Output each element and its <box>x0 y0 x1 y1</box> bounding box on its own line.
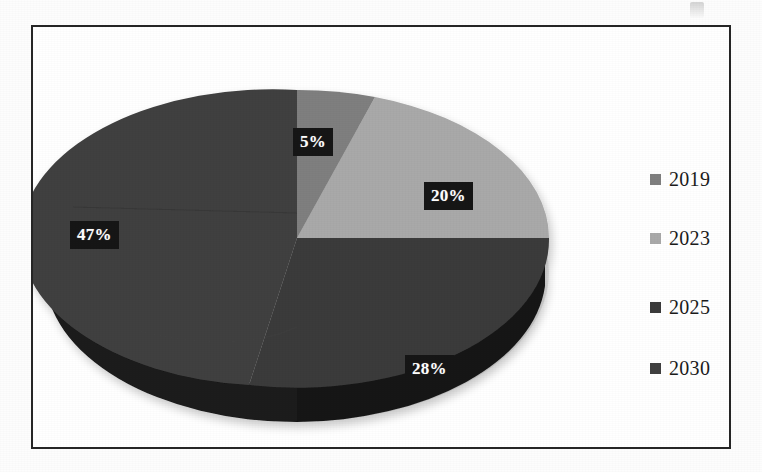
chart-frame: 5% 20% 28% 47% 2019 2023 2025 2030 <box>31 25 731 449</box>
legend-item-2030[interactable]: 2030 <box>650 357 710 379</box>
legend-swatch-icon <box>650 174 661 185</box>
legend-item-2023[interactable]: 2023 <box>650 227 710 249</box>
legend-item-2025[interactable]: 2025 <box>650 296 710 318</box>
legend-label-2019: 2019 <box>669 169 710 189</box>
pie-label-2019: 5% <box>293 128 333 156</box>
scan-artifact <box>690 2 704 18</box>
page-canvas: 5% 20% 28% 47% 2019 2023 2025 2030 <box>0 0 762 472</box>
pie-label-2023: 20% <box>424 182 473 210</box>
legend-swatch-icon <box>650 233 661 244</box>
pie-slice-2025 <box>249 238 549 388</box>
pie-3d-body <box>33 89 549 422</box>
legend-label-2023: 2023 <box>669 228 710 248</box>
legend-swatch-icon <box>650 363 661 374</box>
legend-item-2019[interactable]: 2019 <box>650 168 710 190</box>
pie-chart: 5% 20% 28% 47% <box>33 27 613 447</box>
pie-label-2030: 47% <box>70 221 119 249</box>
legend-label-2025: 2025 <box>669 297 710 317</box>
chart-legend: 2019 2023 2025 2030 <box>650 144 762 394</box>
pie-chart-svg <box>33 27 613 447</box>
legend-swatch-icon <box>650 302 661 313</box>
legend-label-2030: 2030 <box>669 358 710 378</box>
pie-label-2025: 28% <box>405 355 454 383</box>
